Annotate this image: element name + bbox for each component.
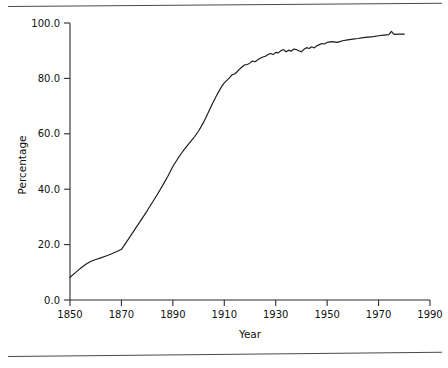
- x-tick-label: 1950: [314, 309, 339, 320]
- x-tick-label: 1930: [263, 309, 288, 320]
- y-tick-label: 60.0: [38, 128, 60, 139]
- y-axis-title: Percentage: [16, 135, 28, 194]
- x-tick-label: 1870: [109, 309, 134, 320]
- y-tick-label: 20.0: [38, 239, 60, 250]
- y-axis-tick-labels: 0.020.040.060.080.0100.0: [31, 18, 60, 306]
- x-tick-label: 1890: [160, 309, 185, 320]
- x-tick-label: 1850: [57, 309, 82, 320]
- y-axis-ticks: [64, 23, 70, 300]
- chart-figure: 0.020.040.060.080.0100.0 185018701890191…: [0, 0, 448, 368]
- y-tick-label: 0.0: [44, 295, 60, 306]
- x-axis-tick-labels: 18501870189019101930195019701990: [57, 309, 442, 320]
- y-tick-label: 80.0: [38, 73, 60, 84]
- x-tick-label: 1910: [212, 309, 237, 320]
- x-axis-ticks: [70, 300, 430, 306]
- y-tick-label: 40.0: [38, 184, 60, 195]
- data-series-line: [70, 31, 404, 277]
- line-chart: 0.020.040.060.080.0100.0 185018701890191…: [0, 0, 448, 368]
- x-axis-title: Year: [238, 328, 262, 340]
- x-tick-label: 1970: [366, 309, 391, 320]
- x-tick-label: 1990: [417, 309, 442, 320]
- y-tick-label: 100.0: [31, 18, 60, 29]
